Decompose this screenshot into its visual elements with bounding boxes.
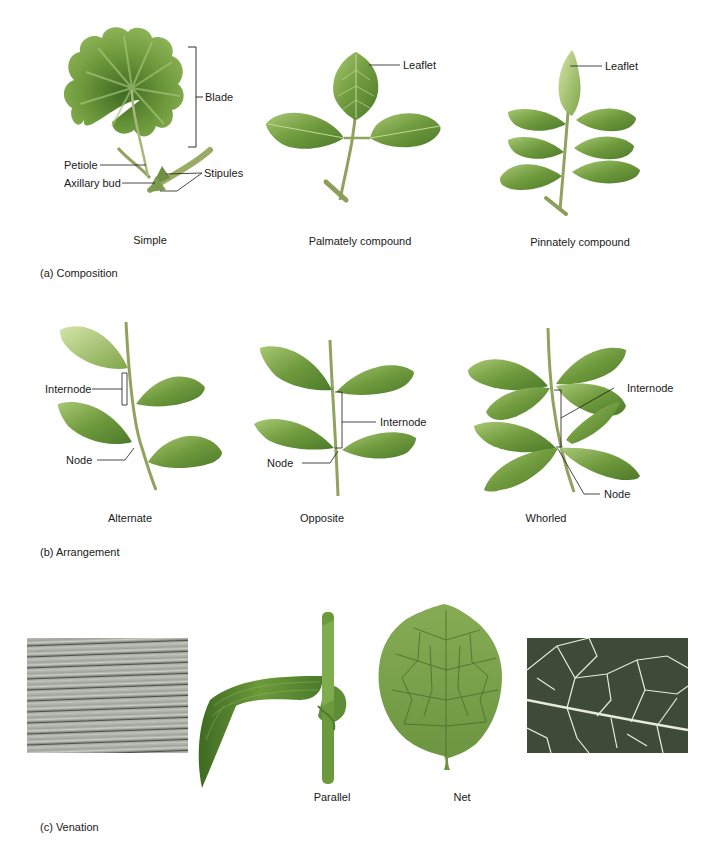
- label-node-whorled: Node: [604, 488, 630, 501]
- parallel-venation-illustration: [199, 612, 347, 788]
- label-stipules: Stipules: [204, 167, 243, 180]
- net-venation-illustration: [379, 604, 502, 770]
- label-internode-whorled: Internode: [627, 382, 673, 395]
- label-axillary-bud: Axillary bud: [64, 177, 121, 190]
- section-title-composition: (a) Composition: [40, 267, 118, 280]
- parallel-venation-micrograph: [27, 638, 188, 753]
- label-node-alternate: Node: [66, 454, 92, 467]
- caption-palmately-compound: Palmately compound: [290, 235, 430, 248]
- caption-pinnately-compound: Pinnately compound: [510, 236, 650, 249]
- palmate-leaf-illustration: [266, 52, 441, 200]
- label-node-opposite: Node: [267, 457, 293, 470]
- caption-parallel: Parallel: [307, 791, 357, 804]
- whorled-arrangement-illustration: [468, 328, 640, 492]
- caption-net: Net: [447, 791, 477, 804]
- section-title-venation: (c) Venation: [40, 821, 99, 834]
- label-blade: Blade: [205, 91, 233, 104]
- pinnate-leaf-illustration: [500, 50, 640, 214]
- caption-simple: Simple: [110, 234, 190, 247]
- section-title-arrangement: (b) Arrangement: [40, 546, 119, 559]
- label-leaflet-palmate: Leaflet: [403, 59, 436, 72]
- net-venation-micrograph: [527, 638, 688, 753]
- blade-bracket: [188, 47, 203, 147]
- caption-alternate: Alternate: [100, 512, 160, 525]
- label-leaflet-pinnate: Leaflet: [605, 60, 638, 73]
- caption-whorled: Whorled: [516, 512, 576, 525]
- label-internode-opposite: Internode: [380, 416, 426, 429]
- label-internode-alternate: Internode: [45, 383, 91, 396]
- label-petiole: Petiole: [64, 159, 98, 172]
- caption-opposite: Opposite: [292, 512, 352, 525]
